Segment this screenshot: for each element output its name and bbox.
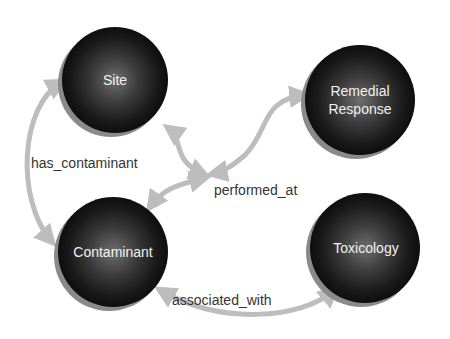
edge-label-performed-at: performed_at <box>214 182 297 198</box>
edge-contaminant-to-junction <box>150 178 205 207</box>
edge-label-associated-with: associated_with <box>172 292 272 308</box>
node-contaminant-label: Contaminant <box>73 244 152 260</box>
node-site-label: Site <box>103 72 127 88</box>
node-site[interactable]: Site <box>58 27 168 137</box>
node-toxicology-label: Toxicology <box>333 240 398 256</box>
edge-site-to-junction <box>168 128 205 175</box>
node-remedial-label-line2: Response <box>328 101 391 117</box>
node-toxicology[interactable]: Toxicology <box>306 193 420 307</box>
node-remedial-response[interactable]: Remedial Response <box>301 45 415 159</box>
node-remedial-label-line1: Remedial <box>330 83 389 99</box>
edge-remedial-to-junction <box>212 95 305 174</box>
edge-label-has-contaminant: has_contaminant <box>31 155 138 171</box>
concept-diagram: Site Remedial Response Contaminant Toxic… <box>0 0 450 339</box>
diagram-svg: Site Remedial Response Contaminant Toxic… <box>0 0 450 339</box>
node-contaminant[interactable]: Contaminant <box>54 197 168 311</box>
